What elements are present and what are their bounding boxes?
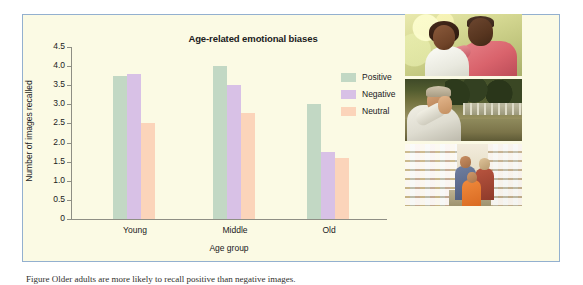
legend-item-negative: Negative	[341, 87, 396, 101]
bar-young-negative	[127, 74, 141, 219]
y-tick-label: 0	[60, 213, 65, 223]
bar-young-neutral	[141, 123, 155, 219]
y-axis-title: Number of images recalled	[24, 80, 34, 182]
photo-family-in-supermarket	[405, 144, 522, 206]
photo-older-man-and-girl	[405, 14, 522, 76]
y-tick-label: 4.0	[53, 60, 65, 70]
y-tick-label: 0.5	[53, 194, 65, 204]
photo-stack	[405, 14, 522, 209]
y-tick-label: 3.0	[53, 98, 65, 108]
bar-group-young: Young	[113, 47, 157, 219]
y-tick-label: 2.0	[53, 137, 65, 147]
legend-item-positive: Positive	[341, 70, 396, 84]
x-tick-label-old: Old	[307, 225, 351, 235]
y-axis-line	[71, 47, 72, 219]
legend-swatch-icon	[341, 107, 356, 116]
x-tick-label-young: Young	[113, 225, 157, 235]
bar-middle-neutral	[241, 113, 255, 219]
plot-area: 4.5 4.0 3.5 3.0 2.5 2.0	[71, 47, 387, 219]
bar-young-positive	[113, 76, 127, 219]
bar-group-middle: Middle	[213, 47, 257, 219]
chart-legend: Positive Negative Neutral	[341, 70, 396, 121]
x-tick-label-middle: Middle	[213, 225, 257, 235]
legend-label: Negative	[362, 89, 396, 99]
y-tick-label: 2.5	[53, 117, 65, 127]
x-axis-line	[71, 219, 387, 220]
legend-label: Positive	[362, 72, 392, 82]
y-tick-label: 1.0	[53, 175, 65, 185]
bar-old-neutral	[335, 158, 349, 219]
bar-middle-negative	[227, 85, 241, 219]
y-tick-label: 3.5	[53, 79, 65, 89]
y-tick-label: 4.5	[53, 41, 65, 51]
bar-old-positive	[307, 104, 321, 219]
x-axis-title: Age group	[71, 243, 387, 253]
bar-old-negative	[321, 152, 335, 219]
legend-label: Neutral	[362, 106, 389, 116]
legend-item-neutral: Neutral	[341, 104, 396, 118]
chart-title: Age-related emotional biases	[133, 33, 373, 44]
bar-middle-positive	[213, 66, 227, 219]
legend-swatch-icon	[341, 90, 356, 99]
photo-distressed-man	[405, 79, 522, 141]
legend-swatch-icon	[341, 73, 356, 82]
figure-caption: Figure Older adults are more likely to r…	[26, 274, 556, 285]
y-tick-label: 1.5	[53, 156, 65, 166]
